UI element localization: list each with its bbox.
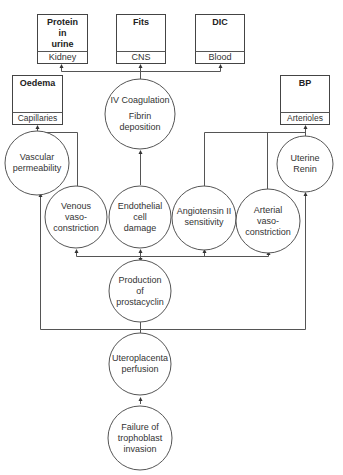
connector-coagulation-outcomes <box>60 64 223 79</box>
label-line: constriction <box>245 227 291 238</box>
label-line: cell <box>133 212 147 223</box>
node-prostacyclin-label: Production of prostacyclin <box>108 274 172 308</box>
connector-prostacyclin-bus <box>75 249 271 262</box>
label-line: Uterine <box>290 153 319 164</box>
title-line: Protein <box>37 17 88 28</box>
box-protein-organ: Kidney <box>37 52 88 63</box>
label-line: Production <box>118 275 161 286</box>
label-line: permeability <box>13 163 62 174</box>
label-line: Uteroplacenta <box>112 353 168 364</box>
node-uterine-label: Uterine Renin <box>277 152 333 176</box>
label-line: vaso- <box>65 212 87 223</box>
label-line: Arterial <box>254 205 283 216</box>
arrow-head-icon <box>139 64 143 68</box>
arrow-head-icon <box>219 64 223 68</box>
box-fits-title: Fits <box>116 17 166 28</box>
label-line: constriction <box>53 223 99 234</box>
arrow-head-icon <box>75 249 79 253</box>
label-line: Venous <box>61 201 91 212</box>
label-line: Renin <box>293 164 317 175</box>
label-line: IV Coagulation <box>110 95 169 106</box>
title-line: in <box>37 28 88 39</box>
label-line: prostacyclin <box>116 297 164 308</box>
node-arterial-label: Arterial vaso- constriction <box>236 204 300 238</box>
connector-endothelial-coagulation <box>139 150 143 185</box>
title-line: urine <box>37 39 88 50</box>
label-line: of <box>136 286 144 297</box>
label-line: deposition <box>119 122 160 133</box>
label-line: Failure of <box>121 422 159 433</box>
box-bp-organ: Arterioles <box>280 113 330 124</box>
node-coagulation-label: IV Coagulation Fibrin deposition <box>102 92 178 136</box>
arrow-head-icon <box>36 125 40 129</box>
box-dic-organ: Blood <box>195 52 245 63</box>
box-oedema-title: Oedema <box>12 78 63 89</box>
label-line: invasion <box>123 444 156 455</box>
label-line: Angiotensin II <box>177 206 232 217</box>
label-line: damage <box>124 223 157 234</box>
arrow-head-icon <box>60 64 64 68</box>
node-venous-label: Venous vaso- constriction <box>44 200 108 234</box>
arrow-head-icon <box>139 249 143 253</box>
label-line: Endothelial <box>118 201 163 212</box>
node-vascular-label: Vascular permeability <box>3 151 71 175</box>
label-line: perfusion <box>121 364 158 375</box>
box-fits-organ: CNS <box>116 52 166 63</box>
arrow-head-icon <box>139 397 143 401</box>
label-line: sensitivity <box>184 217 223 228</box>
label-line: Vascular <box>20 152 54 163</box>
arrow-head-icon <box>304 125 308 129</box>
arrow-head-icon <box>304 192 308 196</box>
node-failure-label: Failure of trophoblast invasion <box>108 421 172 455</box>
node-angiotensin-label: Angiotensin II sensitivity <box>170 205 238 229</box>
node-uteroplacenta-label: Uteroplacenta perfusion <box>106 352 174 376</box>
label-line: vaso- <box>257 216 279 227</box>
box-dic-title: DIC <box>195 17 245 28</box>
box-protein-title: Protein in urine <box>37 17 88 50</box>
node-endothelial-label: Endothelial cell damage <box>108 200 172 234</box>
label-line: trophoblast <box>118 433 163 444</box>
box-oedema-organ: Capillaries <box>12 113 63 124</box>
label-line: Fibrin <box>129 111 152 122</box>
box-bp-title: BP <box>280 78 330 89</box>
arrow-head-icon <box>139 150 143 154</box>
